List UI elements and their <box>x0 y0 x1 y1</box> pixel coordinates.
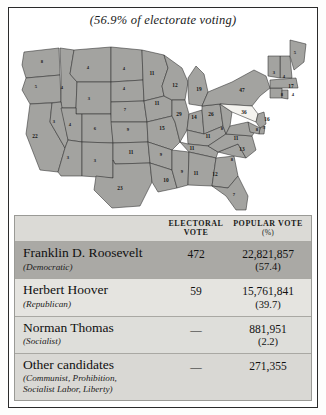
state-vote-label-tn: 11 <box>189 145 194 151</box>
state-vote-label-mi: 19 <box>196 86 202 92</box>
popular-vote-cell: 881,951(2.2) <box>225 316 311 353</box>
candidate-name: Norman Thomas <box>23 321 167 336</box>
candidate-name: Herbert Hoover <box>23 283 167 298</box>
candidate-name: Franklin D. Roosevelt <box>23 246 167 261</box>
candidate-party: (Democratic) <box>23 262 167 273</box>
state-ks <box>111 122 148 143</box>
state-vote-label-ma: 17 <box>288 83 294 89</box>
state-vote-label-ga: 12 <box>212 171 218 177</box>
table-row: Franklin D. Roosevelt(Democratic)47222,8… <box>15 242 311 279</box>
state-vote-label-de: 3 <box>263 125 266 130</box>
popular-vote-count: 22,821,857 <box>242 248 294 260</box>
header-electoral-vote: ELECTORAL VOTE <box>167 216 225 242</box>
electoral-vote-cell: — <box>167 316 225 353</box>
state-vote-label-va: 11 <box>233 135 238 141</box>
map-svg: 8522434343634479112311111591012299191411… <box>12 30 314 212</box>
header-electoral-line2: VOTE <box>167 228 225 237</box>
candidate-party: (Socialist) <box>23 336 167 347</box>
state-nd <box>111 47 143 82</box>
state-al <box>188 152 216 186</box>
state-vote-label-mn: 11 <box>149 70 154 76</box>
state-ne <box>111 101 147 122</box>
popular-vote-percent: (39.7) <box>225 299 311 311</box>
results-table: ELECTORAL VOTE POPULAR VOTE (%) Franklin… <box>14 215 312 401</box>
state-wy <box>76 82 111 114</box>
candidate-cell: Herbert Hoover(Republican) <box>15 279 167 316</box>
state-vote-label-pa: 36 <box>241 109 247 115</box>
popular-vote-cell: 271,355 <box>225 353 311 400</box>
popular-vote-count: 15,761,841 <box>242 285 294 297</box>
table-header-row: ELECTORAL VOTE POPULAR VOTE (%) <box>15 216 311 242</box>
header-electoral-line1: ELECTORAL <box>168 219 223 228</box>
state-vote-label-al: 11 <box>193 170 198 176</box>
header-popular-vote: POPULAR VOTE (%) <box>225 216 311 242</box>
electoral-vote-cell: 59 <box>167 279 225 316</box>
table-row: Herbert Hoover(Republican)5915,761,841(3… <box>15 279 311 316</box>
state-vote-label-la: 10 <box>163 177 169 183</box>
state-vote-label-nj: 16 <box>264 116 270 122</box>
state-vote-label-ca: 22 <box>32 133 38 139</box>
header-candidate <box>15 216 167 242</box>
popular-vote-cell: 22,821,857(57.4) <box>225 242 311 279</box>
state-mt <box>70 47 111 82</box>
candidate-cell: Other candidates(Communist, Prohibition,… <box>15 353 167 400</box>
state-vote-label-in: 14 <box>191 114 197 120</box>
state-vote-label-oh: 26 <box>208 111 214 117</box>
state-wi <box>162 55 188 100</box>
electoral-vote-cell: 472 <box>167 242 225 279</box>
figure-caption: (56.9% of electorate voting) <box>0 13 326 28</box>
election-map-figure: (56.9% of electorate voting) <box>0 0 326 415</box>
header-popular-line1: POPULAR VOTE <box>233 219 303 228</box>
state-vote-label-ky: 11 <box>205 133 210 139</box>
popular-vote-percent: (57.4) <box>225 261 311 273</box>
state-ma <box>270 78 298 88</box>
state-vote-label-ri: 4 <box>292 92 295 97</box>
us-electoral-map: 8522434343634479112311111591012299191411… <box>12 30 314 212</box>
state-vote-label-mo: 15 <box>159 125 165 131</box>
candidate-party: (Republican) <box>23 299 167 310</box>
state-ny <box>202 70 270 106</box>
table-row: Other candidates(Communist, Prohibition,… <box>15 353 311 400</box>
candidate-name: Other candidates <box>23 358 167 373</box>
popular-vote-count: 271,355 <box>249 360 286 372</box>
electoral-vote-cell: — <box>167 353 225 400</box>
state-vote-label-tx: 23 <box>117 185 123 191</box>
state-nh <box>280 56 292 78</box>
state-co <box>82 114 113 143</box>
state-vote-label-wi: 12 <box>172 82 178 88</box>
candidate-party: (Communist, Prohibition,Socialist Labor,… <box>23 373 167 395</box>
state-vote-label-ia: 11 <box>154 100 159 106</box>
popular-vote-count: 881,951 <box>249 323 286 335</box>
popular-vote-cell: 15,761,841(39.7) <box>225 279 311 316</box>
state-vote-label-nc: 13 <box>239 146 245 152</box>
state-nm <box>82 142 113 178</box>
state-vote-label-ok: 11 <box>128 149 133 155</box>
state-vote-label-ny: 47 <box>239 87 245 93</box>
table-row: Norman Thomas(Socialist)—881,951(2.2) <box>15 316 311 353</box>
table-body: Franklin D. Roosevelt(Democratic)47222,8… <box>15 242 311 401</box>
state-me <box>290 40 306 70</box>
candidate-cell: Franklin D. Roosevelt(Democratic) <box>15 242 167 279</box>
state-sd <box>111 80 144 102</box>
popular-vote-percent: (2.2) <box>225 336 311 348</box>
state-or <box>22 75 61 104</box>
state-vote-label-il: 29 <box>176 111 182 117</box>
header-popular-line2: (%) <box>225 228 311 237</box>
candidate-cell: Norman Thomas(Socialist) <box>15 316 167 353</box>
